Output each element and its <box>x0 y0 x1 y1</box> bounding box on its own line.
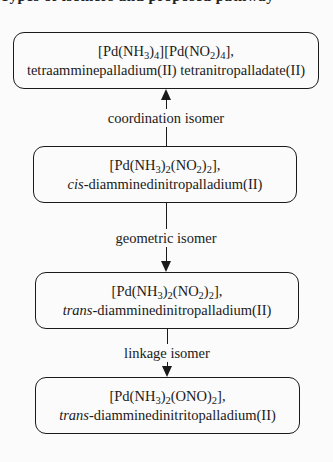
edge-label-coordination: coordination isomer <box>106 109 226 127</box>
node-name: trans-diamminedinitritopalladium(II) <box>59 406 276 425</box>
arrow-down-icon <box>162 366 172 377</box>
node-name: cis-diamminedinitropalladium(II) <box>68 175 263 194</box>
arrow-down-icon <box>161 261 171 272</box>
node-formula: [Pd(NH3)2(ONO)2], <box>109 387 225 406</box>
node-formula: [Pd(NH3)4][Pd(NO2)4], <box>98 42 234 61</box>
node-trans-nitro: [Pd(NH3)2(NO2)2], trans-diamminedinitrop… <box>35 272 299 329</box>
node-formula: [Pd(NH3)2(NO2)2], <box>110 156 221 175</box>
node-formula: [Pd(NH3)2(NO2)2], <box>112 282 223 301</box>
node-name: trans-diamminedinitropalladium(II) <box>63 301 272 320</box>
node-name: tetraamminepalladium(II) tetranitropalla… <box>27 61 305 80</box>
node-trans-nitrito: [Pd(NH3)2(ONO)2], trans-diamminedinitrit… <box>35 377 300 434</box>
node-coordination-isomer: [Pd(NH3)4][Pd(NO2)4], tetraamminepalladi… <box>13 32 319 89</box>
arrow-up-icon <box>161 89 171 100</box>
node-cis: [Pd(NH3)2(NO2)2], cis-diamminedinitropal… <box>33 146 297 203</box>
edge-label-linkage: linkage isomer <box>122 344 212 362</box>
clipped-header-text: Types of isomers and proposed pathway <box>0 0 333 4</box>
edge-label-geometric: geometric isomer <box>113 229 218 247</box>
